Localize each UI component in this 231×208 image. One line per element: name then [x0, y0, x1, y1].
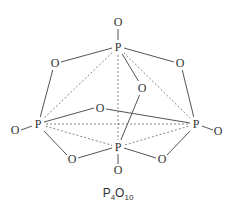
- atom-o-far-left: O: [11, 123, 20, 137]
- atom-p-top: P: [115, 40, 122, 54]
- atom-o-inner: O: [138, 81, 147, 95]
- p4o10-structure: O P O O O O P O P O P O O O P4O10: [0, 0, 231, 208]
- atom-p-bottom: P: [115, 140, 122, 154]
- atom-o-center: O: [96, 101, 105, 115]
- atom-o-bottom: O: [114, 163, 123, 177]
- atom-o-top: O: [114, 15, 123, 29]
- atom-o-upper-right: O: [176, 56, 185, 70]
- atom-o-far-right: O: [214, 124, 223, 138]
- atom-p-right: P: [193, 117, 200, 131]
- atom-o-upper-left: O: [51, 56, 60, 70]
- atom-o-lower-left: O: [68, 152, 77, 166]
- formula-label: P4O10: [103, 186, 134, 202]
- atom-p-left: P: [35, 117, 42, 131]
- atom-o-lower-right: O: [158, 152, 167, 166]
